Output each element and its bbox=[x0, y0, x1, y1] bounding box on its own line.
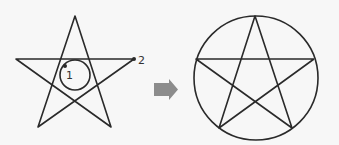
outer-circle bbox=[194, 16, 318, 140]
diagram-canvas: 1 2 bbox=[0, 0, 339, 145]
marker-1-dot bbox=[63, 64, 67, 68]
left-pentagram bbox=[16, 16, 134, 127]
left-star-path bbox=[16, 16, 134, 127]
marker-1-label: 1 bbox=[66, 69, 73, 82]
diagram-svg: 1 2 bbox=[0, 0, 339, 145]
right-arrow-icon bbox=[154, 79, 178, 100]
right-pentagram bbox=[194, 16, 318, 140]
marker-2-label: 2 bbox=[138, 54, 145, 67]
marker-2-dot bbox=[132, 57, 136, 61]
